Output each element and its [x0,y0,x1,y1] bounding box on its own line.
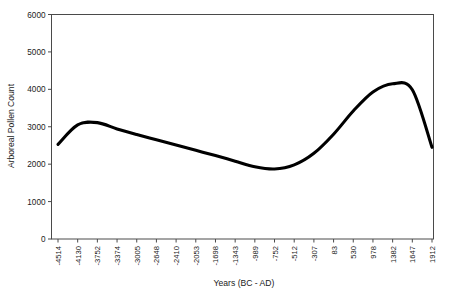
series-line-0 [58,83,432,170]
x-tick-label: -3374 [113,246,122,265]
x-tick-label: -2648 [152,246,161,265]
y-tick-label: 0 [41,235,46,244]
x-axis: -4514-4130-3752-3374-3005-2648-2410-2053… [54,239,437,265]
x-tick-label: -752 [271,246,280,261]
x-tick-label: -2053 [192,246,201,265]
y-axis: 0100020003000400050006000 [27,11,51,245]
data-series-group [58,83,432,170]
pollen-count-chart: 0100020003000400050006000 -4514-4130-375… [0,0,451,295]
x-tick-label: -1698 [211,246,220,265]
x-tick-label: -989 [251,246,260,261]
x-tick-label: 978 [369,246,378,259]
x-tick-label: -4130 [74,246,83,265]
x-tick-label: -2410 [172,246,181,265]
x-tick-label: 1382 [389,246,398,263]
x-tick-label: -512 [290,246,299,261]
y-axis-title: Arboreal Pollen Count [6,83,16,168]
x-tick-label: -1343 [231,246,240,265]
x-tick-label: -307 [310,246,319,261]
x-tick-label: 530 [349,246,358,259]
y-tick-label: 3000 [27,123,46,132]
y-tick-label: 2000 [27,160,46,169]
x-tick-label: -4514 [54,246,63,265]
y-tick-label: 1000 [27,198,46,207]
x-tick-label: -3752 [93,246,102,265]
chart-canvas: 0100020003000400050006000 -4514-4130-375… [0,0,451,295]
x-tick-label: 1647 [408,246,417,263]
x-tick-label: 83 [330,246,339,254]
x-tick-label: 1912 [428,246,437,263]
y-tick-label: 4000 [27,85,46,94]
y-tick-label: 6000 [27,11,46,20]
x-tick-label: -3005 [133,246,142,265]
y-tick-label: 5000 [27,48,46,57]
x-axis-title: Years (BC - AD) [214,278,275,288]
